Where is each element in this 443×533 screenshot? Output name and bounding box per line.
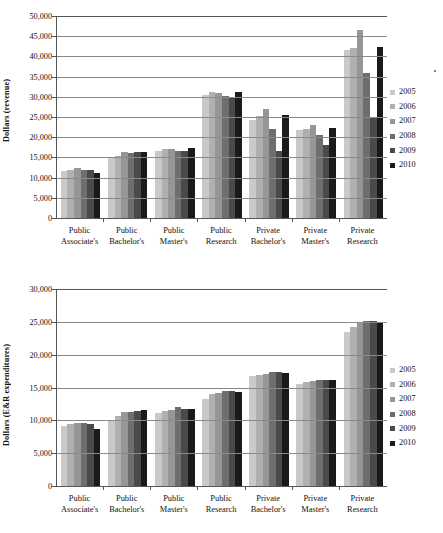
legend-swatch-icon [390, 90, 395, 95]
x-axis-label-line: Master's [292, 237, 339, 248]
bar [115, 416, 122, 486]
y-tick-label: 10,000 [12, 416, 52, 425]
legend-label: 2008 [399, 132, 416, 140]
legend-item[interactable]: 2006 [390, 100, 416, 115]
bar [329, 380, 336, 486]
legend-item[interactable]: 2005 [390, 363, 416, 378]
bar [235, 92, 242, 218]
legend-label: 2010 [399, 439, 416, 447]
y-tick-label: 50,000 [12, 12, 52, 21]
y-tick-label: 30,000 [12, 285, 52, 294]
y-tick-label: 35,000 [12, 72, 52, 81]
x-axis-label-line: Master's [292, 505, 339, 516]
legend-item[interactable]: 2010 [390, 436, 416, 451]
legend-item[interactable]: 2009 [390, 421, 416, 436]
legend-swatch-icon [390, 426, 395, 431]
bar [115, 156, 122, 218]
legend-item[interactable]: 2007 [390, 392, 416, 407]
bar [357, 30, 364, 218]
x-axis-label-line: Research [339, 237, 386, 248]
y-axis-title-expenditures: Dollars (E&R expenditures) [2, 330, 11, 460]
x-axis-label-line: Bachelor's [103, 505, 150, 516]
x-axis-label-line: Associate's [56, 237, 103, 248]
x-axis-label-line: Private [292, 494, 339, 505]
bar [134, 152, 141, 218]
legend-swatch-icon [390, 134, 395, 139]
bar [323, 380, 330, 486]
bar [350, 327, 357, 486]
bar [141, 152, 148, 218]
x-axis-label: PrivateMaster's [292, 494, 339, 515]
x-axis-label: PublicResearch [197, 494, 244, 515]
legend-item[interactable]: 2010 [390, 158, 416, 173]
y-axis-title-revenue: Dollars (revenue) [2, 60, 11, 160]
bar [269, 372, 276, 486]
gridline [57, 453, 387, 454]
bar [263, 109, 270, 218]
bar [256, 116, 263, 218]
legend-swatch-icon [390, 441, 395, 446]
bar [162, 149, 169, 218]
bar [141, 410, 148, 486]
x-axis-label-line: Private [292, 226, 339, 237]
bar [121, 412, 128, 486]
figure-page: Dollars (revenue) 50,00045,00040,00035,0… [0, 0, 443, 533]
x-tick-mark [339, 218, 340, 222]
gridline [57, 36, 387, 37]
bar [128, 412, 135, 486]
y-tick-label: 5,000 [12, 449, 52, 458]
x-tick-mark [150, 486, 151, 490]
y-tick-label: 0 [12, 482, 52, 491]
bar [310, 381, 317, 486]
y-tick-label: 30,000 [12, 92, 52, 101]
y-tick-label: 45,000 [12, 32, 52, 41]
x-axis-label-line: Associate's [56, 505, 103, 516]
bar [269, 129, 276, 218]
y-tick-label: 40,000 [12, 52, 52, 61]
x-axis-label-line: Bachelor's [245, 237, 292, 248]
bar [310, 125, 317, 218]
bar [168, 149, 175, 218]
bar [276, 151, 283, 218]
legend-item[interactable]: 2008 [390, 407, 416, 422]
bar [235, 392, 242, 486]
legend-item[interactable]: 2006 [390, 378, 416, 393]
legend-revenue: 200520062007200820092010 [390, 85, 416, 173]
x-tick-mark [292, 486, 293, 490]
bar [249, 376, 256, 486]
x-tick-mark [150, 218, 151, 222]
legend-label: 2007 [399, 117, 416, 125]
plot-area-revenue [56, 16, 387, 219]
legend-item[interactable]: 2007 [390, 114, 416, 129]
legend-swatch-icon [390, 368, 395, 373]
legend-swatch-icon [390, 412, 395, 417]
x-axis-label: PublicAssociate's [56, 494, 103, 515]
x-axis-label-line: Master's [150, 505, 197, 516]
x-tick-mark [197, 486, 198, 490]
x-axis-label-line: Private [339, 226, 386, 237]
x-axis-label-line: Public [56, 494, 103, 505]
gridline [57, 388, 387, 389]
legend-label: 2007 [399, 395, 416, 403]
bar [215, 393, 222, 486]
plot-area-expenditures [56, 289, 387, 487]
gridline [57, 198, 387, 199]
x-axis-label-line: Private [339, 494, 386, 505]
y-tick-label: 15,000 [12, 383, 52, 392]
gridline [57, 420, 387, 421]
legend-item[interactable]: 2005 [390, 85, 416, 100]
legend-item[interactable]: 2009 [390, 143, 416, 158]
x-axis-label: PrivateResearch [339, 226, 386, 247]
legend-swatch-icon [390, 104, 395, 109]
y-tick-label: 20,000 [12, 133, 52, 142]
legend-swatch-icon [390, 119, 395, 124]
legend-item[interactable]: 2008 [390, 129, 416, 144]
bar [316, 135, 323, 218]
bar [94, 173, 101, 218]
x-axis-label: PublicResearch [197, 226, 244, 247]
legend-swatch-icon [390, 163, 395, 168]
legend-label: 2006 [399, 103, 416, 111]
bar [344, 50, 351, 218]
stray-speck [434, 70, 436, 72]
bar [74, 423, 81, 486]
